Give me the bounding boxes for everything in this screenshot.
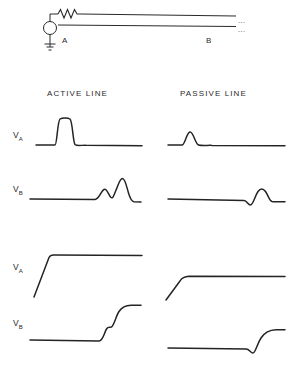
waveform-traces	[0, 0, 296, 372]
trace-passive-vb-step	[168, 330, 285, 353]
trace-passive-va-step	[166, 276, 285, 300]
axis-label-subscript: A	[19, 136, 23, 142]
axis-label-va-row3: VA	[13, 262, 23, 274]
trace-active-va-step	[34, 255, 142, 297]
axis-label-va-row1: VA	[13, 130, 23, 142]
crosstalk-figure: ... ... A B ACTIVE LINE PASSIVE LINE	[0, 0, 296, 372]
axis-label-subscript: A	[19, 268, 23, 274]
trace-active-va-pulse	[36, 118, 142, 146]
axis-label-subscript: B	[19, 324, 23, 330]
axis-label-vb-row4: VB	[13, 318, 23, 330]
axis-label-subscript: B	[19, 190, 23, 196]
trace-active-vb-step	[30, 305, 141, 341]
axis-label-vb-row2: VB	[13, 184, 23, 196]
trace-active-vb-pulse	[30, 179, 141, 203]
trace-passive-vb-pulse	[168, 189, 285, 205]
trace-passive-va-pulse	[168, 132, 285, 146]
